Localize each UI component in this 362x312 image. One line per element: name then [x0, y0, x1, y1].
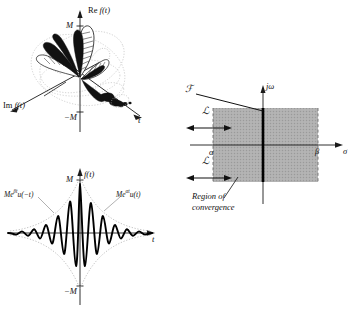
- panel-time-domain: f(t) t M −M Meβtu(−t) Meαtu(t): [0, 155, 182, 312]
- roc-annotation: Region of convergence: [192, 191, 235, 214]
- axis-label-im: Im f(t): [3, 101, 25, 110]
- arrow-right-head-bottom: [224, 175, 232, 181]
- operator-laplace-bottom: ℒ: [183, 154, 235, 188]
- axis-label-t-time: t: [152, 235, 154, 244]
- laplace-symbol-bottom: ℒ: [202, 156, 209, 166]
- arrow-left-head-bottom: [186, 175, 194, 181]
- panel-roc: ℱ jω σ α β Region of convergence: [180, 78, 362, 212]
- roc-annotation-line1: Region of: [192, 191, 235, 202]
- re-axis-arrow: [77, 10, 82, 18]
- tick-label-m-neg-time: −M: [64, 287, 77, 296]
- axis-label-f: f(t): [84, 170, 94, 179]
- tick-label-beta: β: [315, 147, 319, 156]
- transform-symbol-label: ℱ: [185, 84, 193, 94]
- envelope-label-left: Meβtu(−t): [4, 189, 33, 198]
- sigma-axis-arrow: [335, 142, 343, 148]
- axis-label-jomega: jω: [266, 82, 274, 91]
- axis-label-t-3d: t: [138, 116, 140, 125]
- operator-laplace-top: ℒ: [183, 104, 235, 138]
- double-arrow-bottom-svg: [183, 154, 235, 188]
- f-axis-arrow: [77, 168, 82, 176]
- im-leader-line: [44, 82, 66, 96]
- complex-signal-3d-svg: [0, 0, 182, 156]
- axis-label-sigma: σ: [343, 147, 347, 156]
- envelope-label-right: Meαtu(t): [116, 189, 141, 198]
- double-arrow-top-svg: [183, 104, 235, 138]
- tick-label-m-neg-3d: −M: [64, 113, 77, 122]
- jomega-axis-arrow: [261, 85, 266, 93]
- tick-label-m-pos-3d: M: [66, 21, 73, 30]
- panel-complex-signal-3d: Re f(t) Im f(t) t M −M: [0, 0, 182, 156]
- arrow-left-head-top: [186, 125, 194, 131]
- tick-label-m-pos-time: M: [66, 175, 73, 184]
- arrow-right-head-top: [224, 125, 232, 131]
- roc-annotation-line2: convergence: [192, 202, 235, 213]
- axis-label-re: Re f(t): [88, 6, 110, 15]
- laplace-symbol-top: ℒ: [202, 106, 209, 116]
